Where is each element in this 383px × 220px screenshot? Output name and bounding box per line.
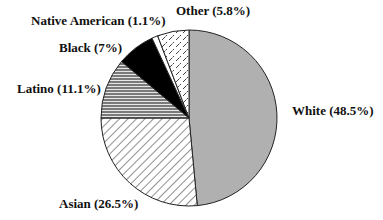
label-white: White (48.5%) bbox=[292, 104, 374, 117]
slice-asian bbox=[101, 118, 197, 206]
pie-slices bbox=[101, 30, 277, 206]
slice-white bbox=[189, 30, 277, 206]
label-latino: Latino (11.1%) bbox=[17, 82, 101, 95]
label-native-american: Native American (1.1%) bbox=[31, 14, 166, 27]
label-other: Other (5.8%) bbox=[176, 4, 250, 17]
label-black: Black (7%) bbox=[59, 41, 122, 54]
label-asian: Asian (26.5%) bbox=[59, 197, 138, 210]
